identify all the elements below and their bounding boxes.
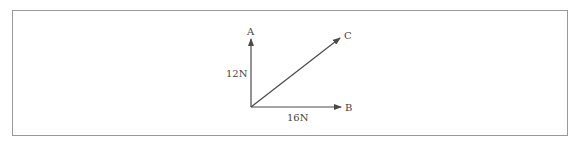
vector-b-label: B <box>345 102 352 113</box>
vector-a-label: A <box>246 26 255 37</box>
vector-c-arrow-icon <box>251 38 340 107</box>
vector-a: A 12N <box>226 26 255 107</box>
vector-b-magnitude: 16N <box>287 112 309 123</box>
force-diagram: A 12N B 16N C <box>0 0 578 148</box>
vector-c-label: C <box>344 30 352 41</box>
vector-b: B 16N <box>251 102 352 123</box>
vector-c: C <box>251 30 352 107</box>
vector-a-magnitude: 12N <box>226 68 248 79</box>
